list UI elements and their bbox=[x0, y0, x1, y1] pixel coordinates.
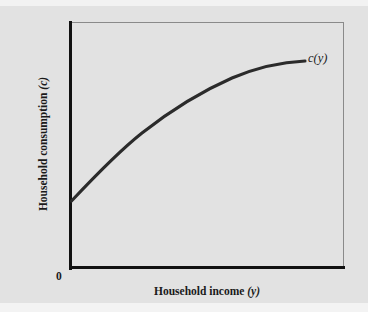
top-margin-band bbox=[0, 0, 368, 6]
y-axis-line bbox=[69, 21, 72, 270]
curve-label: c(y) bbox=[308, 51, 327, 66]
x-axis-line bbox=[69, 266, 345, 269]
consumption-function-figure: c(y) Household consumption (c) Household… bbox=[0, 0, 368, 312]
y-axis-label: Household consumption (c) bbox=[37, 54, 49, 234]
origin-label: 0 bbox=[56, 270, 62, 282]
x-axis-label: Household income (y) bbox=[70, 285, 344, 297]
bottom-margin-band bbox=[0, 303, 368, 312]
plot-frame bbox=[70, 22, 344, 268]
